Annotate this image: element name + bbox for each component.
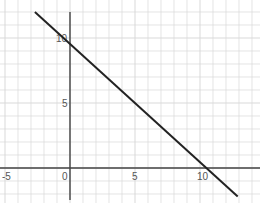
axes bbox=[0, 12, 260, 200]
x-tick-label: 0 bbox=[62, 171, 68, 182]
x-tick-label: -5 bbox=[2, 171, 11, 182]
x-tick-label: 10 bbox=[197, 171, 209, 182]
line-chart: -50510510 bbox=[0, 0, 260, 203]
y-tick-label: 10 bbox=[56, 33, 68, 44]
tick-labels: -50510510 bbox=[2, 33, 209, 182]
y-tick-label: 5 bbox=[62, 98, 68, 109]
grid-lines bbox=[0, 0, 260, 203]
x-tick-label: 5 bbox=[132, 171, 138, 182]
